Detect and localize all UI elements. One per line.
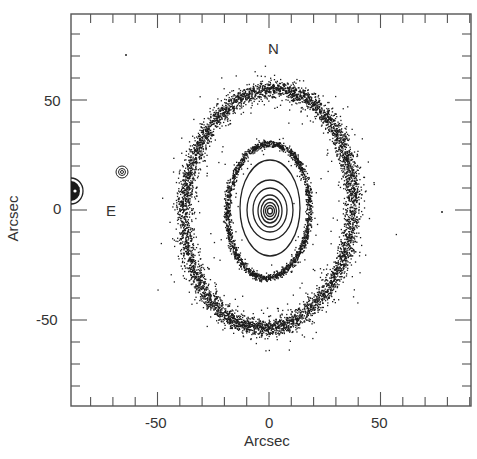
stray-point bbox=[125, 54, 127, 56]
y-axis-label: Arcsec bbox=[4, 196, 21, 242]
x-axis-label: Arcsec bbox=[244, 432, 290, 449]
axis-ticks bbox=[71, 14, 471, 406]
outer-ring bbox=[157, 51, 397, 352]
plot-frame bbox=[71, 14, 471, 406]
stray-point bbox=[441, 211, 443, 213]
y-tick-label-0: 0 bbox=[53, 200, 61, 217]
core-contours bbox=[240, 160, 300, 256]
chart-plot-area bbox=[0, 0, 477, 459]
companion-star-1 bbox=[116, 166, 128, 178]
x-tick-label-neg50: -50 bbox=[145, 414, 167, 431]
north-label: N bbox=[268, 40, 279, 57]
east-label: E bbox=[106, 202, 116, 219]
x-tick-label-50: 50 bbox=[371, 414, 388, 431]
companion-star-2 bbox=[71, 178, 83, 204]
y-tick-label-50: 50 bbox=[44, 92, 61, 109]
y-tick-label-neg50: -50 bbox=[36, 311, 58, 328]
x-tick-label-0: 0 bbox=[265, 414, 273, 431]
